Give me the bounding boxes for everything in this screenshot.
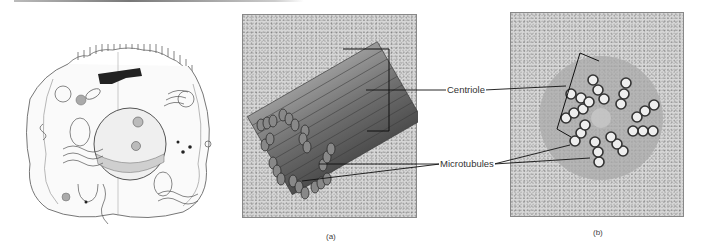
caption-b: (b) [593,228,603,237]
panel-b [510,12,684,217]
caption-a: (a) [326,232,336,241]
cell-illustration [18,44,218,229]
top-rule [14,0,304,2]
microtubules-label: Microtubules [439,158,495,169]
panel-a [242,14,417,218]
centriole-label: Centriole [446,84,486,95]
cell-diagram [18,44,218,229]
centriole-3d-illustration [243,15,418,219]
centriole-cross-section [511,13,685,218]
